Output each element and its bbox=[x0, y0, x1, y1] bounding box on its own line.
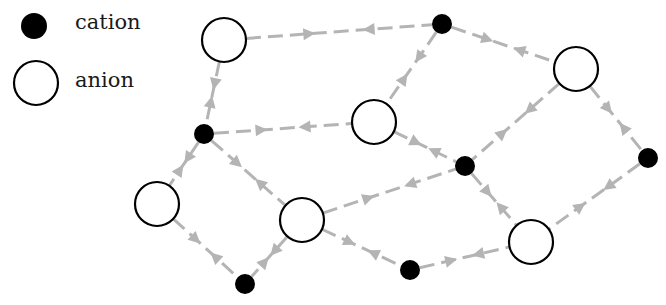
legend-label-anion: anion bbox=[75, 68, 134, 92]
bond-edge bbox=[252, 236, 288, 276]
bond-edge bbox=[549, 164, 640, 229]
anion-node bbox=[509, 220, 553, 264]
arrow-icon bbox=[172, 165, 184, 178]
bond-edge bbox=[472, 174, 517, 226]
cation-node bbox=[400, 260, 420, 280]
anion-node bbox=[135, 182, 179, 226]
bond-edge bbox=[394, 132, 456, 162]
anion-node bbox=[352, 100, 396, 144]
arrow-icon bbox=[572, 203, 585, 215]
bond-edge bbox=[323, 169, 456, 213]
arrow-icon bbox=[404, 177, 417, 188]
bond-edge bbox=[206, 62, 219, 125]
arrow-icon bbox=[480, 32, 493, 43]
arrow-icon bbox=[256, 257, 268, 270]
bond-edge bbox=[420, 247, 510, 268]
anion-node bbox=[202, 18, 246, 62]
anion-node bbox=[280, 198, 324, 242]
arrow-icon bbox=[494, 129, 507, 141]
bond-edge bbox=[214, 124, 352, 134]
bond-edge bbox=[473, 83, 560, 159]
arrow-icon bbox=[210, 77, 222, 90]
bond-edge bbox=[590, 86, 642, 150]
arrow-icon bbox=[396, 74, 408, 87]
legend bbox=[14, 13, 58, 105]
bond-edge bbox=[387, 32, 437, 104]
arrow-icon bbox=[444, 256, 457, 268]
legend-cation-icon bbox=[21, 13, 47, 39]
arrow-icon bbox=[620, 123, 632, 136]
arrow-icon bbox=[255, 124, 267, 136]
arrow-icon bbox=[363, 23, 375, 35]
arrow-icon bbox=[368, 250, 381, 261]
bond-edge bbox=[169, 142, 198, 185]
arrow-icon bbox=[603, 178, 616, 190]
arrow-icon bbox=[210, 253, 223, 266]
cation-node bbox=[194, 124, 214, 144]
bond-edge bbox=[322, 229, 401, 266]
ion-nodes bbox=[135, 14, 658, 294]
arrow-icon bbox=[408, 134, 421, 145]
arrow-icon bbox=[513, 46, 526, 57]
arrow-icon bbox=[303, 28, 315, 40]
arrow-icon bbox=[415, 49, 427, 62]
bond-edge bbox=[212, 141, 286, 206]
legend-label-cation: cation bbox=[75, 10, 141, 34]
bond-edge bbox=[246, 25, 432, 39]
anion-node bbox=[554, 47, 598, 91]
bond-edge bbox=[173, 219, 237, 277]
arrow-icon bbox=[299, 120, 311, 132]
arrow-icon bbox=[361, 194, 374, 205]
bond-edge bbox=[451, 27, 555, 62]
legend-anion-icon bbox=[14, 61, 58, 105]
ion-network-diagram bbox=[0, 0, 666, 305]
cation-node bbox=[638, 148, 658, 168]
cation-node bbox=[432, 14, 452, 34]
arrow-icon bbox=[188, 231, 201, 244]
arrow-icon bbox=[204, 96, 216, 109]
cation-node bbox=[455, 156, 475, 176]
cation-node bbox=[235, 274, 255, 294]
arrow-icon bbox=[472, 247, 485, 259]
arrow-icon bbox=[479, 184, 491, 197]
arrow-icon bbox=[600, 100, 612, 113]
